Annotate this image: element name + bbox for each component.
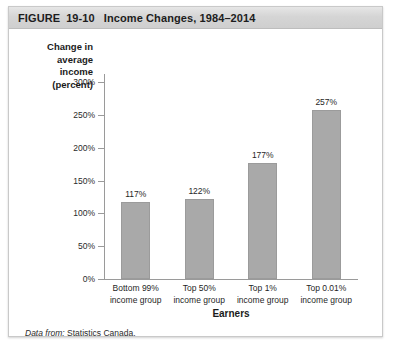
y-axis-tick-label: 0%	[47, 274, 95, 284]
y-axis-tick	[98, 181, 104, 182]
y-axis-title-line-2: average	[15, 54, 93, 67]
chart-plot-area: Change in average income (percent) 0%50%…	[9, 29, 382, 336]
bar	[312, 110, 341, 279]
x-axis-category-label: Top 0.01%income group	[289, 283, 363, 306]
y-axis-tick-label: 300%	[47, 77, 95, 87]
bar-value-label: 122%	[169, 186, 229, 196]
y-axis-tick	[98, 82, 104, 83]
y-axis-tick-label: 100%	[47, 208, 95, 218]
figure-title: Income Changes, 1984–2014	[104, 12, 256, 24]
y-axis-line	[104, 74, 105, 280]
figure-container: FIGURE 19-10 Income Changes, 1984–2014 C…	[8, 6, 383, 337]
x-axis-line	[104, 279, 358, 280]
source-note-lead: Data from:	[25, 328, 65, 338]
y-axis-tick	[98, 279, 104, 280]
bar	[248, 163, 277, 279]
bar-value-label: 177%	[233, 150, 293, 160]
y-axis-tick-label: 250%	[47, 110, 95, 120]
bar-value-label: 117%	[106, 189, 166, 199]
x-axis-title: Earners	[104, 308, 358, 319]
x-axis-category-label-line: Top 0.01%	[289, 283, 363, 295]
figure-label-word: FIGURE	[18, 12, 60, 24]
y-axis-tick	[98, 246, 104, 247]
source-note-text: Statistics Canada.	[67, 328, 136, 338]
source-note: Data from: Statistics Canada.	[25, 328, 136, 338]
bar	[121, 202, 150, 279]
bar-value-label: 257%	[296, 97, 356, 107]
y-axis-tick-label: 150%	[47, 176, 95, 186]
y-axis-tick	[98, 148, 104, 149]
y-axis-tick	[98, 213, 104, 214]
y-axis-tick	[98, 115, 104, 116]
bar	[185, 199, 214, 279]
y-axis-tick-label: 200%	[47, 143, 95, 153]
y-axis-tick-label: 50%	[47, 241, 95, 251]
figure-header: FIGURE 19-10 Income Changes, 1984–2014	[9, 7, 382, 29]
x-axis-category-label-line: income group	[289, 295, 363, 307]
y-axis-title-line-1: Change in	[15, 41, 93, 54]
figure-number: 19-10	[66, 12, 95, 24]
